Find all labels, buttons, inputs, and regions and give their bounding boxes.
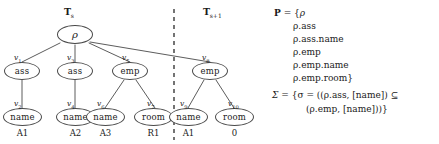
tree-node-v7[interactable]: room	[134, 108, 173, 126]
tree-node-v2-id: v2	[14, 99, 22, 110]
tree-node-v4-label: name	[63, 113, 87, 122]
paths-item-5-line: ρ.emp.room}	[293, 74, 353, 83]
tree-node-v6-label: name	[93, 113, 117, 122]
tree-node-root-label: ρ	[72, 30, 78, 40]
tree-node-v4-id: v4	[67, 99, 75, 110]
edge-v8-v9	[188, 80, 204, 108]
tree-caption-right-base: T	[203, 6, 210, 17]
tree-node-v8[interactable]: emp	[192, 62, 228, 80]
tree-caption-right-sub: s+1	[210, 12, 222, 19]
leaf-value-v10: 0	[215, 128, 254, 138]
paths-header: P = {ρ	[274, 9, 305, 18]
leaf-value-v2: A1	[3, 128, 42, 138]
constraints-equals: =	[281, 90, 289, 100]
tree-node-v5-id: v5	[122, 53, 130, 64]
tree-node-v7-id: v7	[147, 99, 155, 110]
tree-node-root[interactable]: ρ	[57, 25, 93, 44]
tree-node-v3[interactable]: ass	[57, 62, 93, 80]
tree-node-v1-label: ass	[15, 67, 29, 76]
tree-node-v9[interactable]: name	[169, 108, 208, 126]
tree-caption-left-base: T	[64, 6, 71, 17]
paths-item-2-line: ρ.ass.name	[293, 35, 344, 44]
paths-symbol: P	[274, 8, 281, 18]
tree-node-v10[interactable]: room	[215, 108, 254, 126]
tree-node-v6-id: v6	[97, 99, 105, 110]
tree-node-v10-id: v10	[228, 99, 239, 110]
tree-node-v8-id: v8	[202, 53, 210, 64]
paths-item-3-line: ρ.emp	[293, 48, 321, 57]
tree-node-v9-id: v9	[180, 99, 188, 110]
paths-item-4: ρ.emp.name	[293, 60, 349, 70]
tree-node-v7-label: room	[142, 113, 165, 122]
constraints-line-2: (ρ.emp, [name]))}	[306, 105, 388, 114]
tree-node-v3-id: v3	[67, 53, 75, 64]
leaf-value-v6: A3	[86, 128, 125, 138]
constraints-line-1: Σ = {σ = ((ρ.ass, [name]) ⊆	[272, 91, 398, 100]
paths-item-1: ρ.ass	[293, 21, 316, 31]
tree-caption-right: Ts+1	[203, 6, 222, 19]
math-block: P = {ρ ρ.ass ρ.ass.name ρ.emp ρ.emp.name…	[274, 4, 439, 140]
tree-node-v1-id: v1	[14, 53, 22, 64]
paths-item-4-line: ρ.emp.name	[293, 61, 349, 70]
tree-node-v5[interactable]: emp	[112, 62, 148, 80]
paths-item-2: ρ.ass.name	[293, 34, 344, 44]
tree-node-v5-label: emp	[120, 67, 139, 76]
tree-node-v2-label: name	[10, 113, 34, 122]
tree-caption-left-sub: s	[71, 12, 74, 19]
tree-node-v6[interactable]: name	[86, 108, 125, 126]
constraints-body-1: {σ = ((ρ.ass, [name]) ⊆	[292, 90, 399, 100]
tree-caption-left: Ts	[64, 6, 74, 19]
figure-root: Ts Ts+1 ρ ass v1 ass v3 emp v5 emp v8 na…	[0, 0, 439, 144]
tree-node-v1[interactable]: ass	[4, 62, 40, 80]
paths-item-0: ρ	[300, 8, 305, 18]
tree-node-v10-label: room	[223, 113, 246, 122]
constraints-body-2: (ρ.emp, [name]))}	[306, 104, 388, 114]
leaf-value-v9: A1	[169, 128, 208, 138]
paths-item-5: ρ.emp.room}	[293, 73, 353, 83]
edge-v5-v6	[105, 80, 124, 108]
tree-node-v3-label: ass	[68, 67, 82, 76]
tree-node-v9-label: name	[176, 113, 200, 122]
paths-item-1-line: ρ.ass	[293, 22, 316, 31]
tree-node-v2[interactable]: name	[3, 108, 42, 126]
paths-item-3: ρ.emp	[293, 47, 321, 57]
leaf-value-v7: R1	[134, 128, 173, 138]
edge-root-v1	[22, 43, 60, 62]
tree-node-v8-label: emp	[200, 67, 219, 76]
